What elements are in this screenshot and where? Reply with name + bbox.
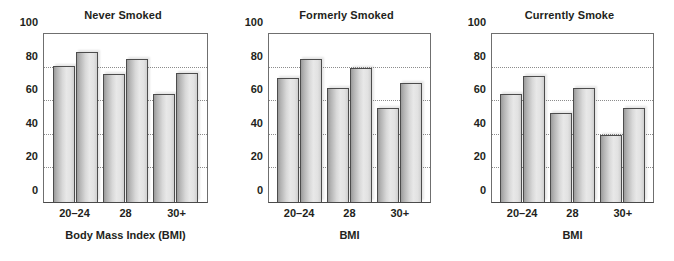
x-axis-tick-label: 20–24: [500, 207, 545, 219]
x-axis-tick-labels: 20–242830+: [43, 207, 208, 219]
bar[interactable]: [623, 108, 645, 202]
x-axis-tick-labels: 20–242830+: [268, 207, 431, 219]
x-axis-tick-label: 30+: [377, 207, 422, 219]
bar[interactable]: [500, 94, 522, 202]
y-axis-tick-label: 40: [251, 117, 263, 129]
y-axis-tick-label: 100: [468, 16, 486, 28]
y-axis-tick-label: 40: [474, 117, 486, 129]
bar[interactable]: [300, 59, 322, 202]
bar-group: [327, 34, 372, 202]
bar-groups: [44, 34, 207, 202]
bar[interactable]: [176, 73, 198, 202]
x-axis-tick-labels: 20–242830+: [491, 207, 654, 219]
bar[interactable]: [76, 52, 98, 202]
y-axis-tick-label: 80: [474, 50, 486, 62]
y-axis-tick-label: 40: [26, 117, 38, 129]
x-axis-tick-label: 20–24: [277, 207, 322, 219]
bar-group: [600, 34, 645, 202]
bar-group: [153, 34, 198, 202]
x-axis-label: BMI: [268, 229, 431, 241]
bar-group: [103, 34, 148, 202]
bar[interactable]: [53, 66, 75, 202]
bar[interactable]: [523, 76, 545, 202]
x-axis-tick-label: 30+: [154, 207, 199, 219]
y-axis-tick-label: 20: [26, 150, 38, 162]
x-axis-tick-label: 30+: [600, 207, 645, 219]
bar-group: [550, 34, 595, 202]
y-axis-tick-label: 20: [251, 150, 263, 162]
bar[interactable]: [327, 88, 349, 202]
bar-group: [53, 34, 98, 202]
bar-group: [277, 34, 322, 202]
y-axis-tick-label: 60: [474, 83, 486, 95]
y-axis-tick-label: 0: [257, 184, 263, 196]
bar-groups: [269, 34, 430, 202]
bar[interactable]: [400, 83, 422, 202]
y-axis-tick-label: 80: [26, 50, 38, 62]
y-axis-tick-label: 0: [480, 184, 486, 196]
bar-groups: [492, 34, 653, 202]
bar[interactable]: [350, 68, 372, 202]
y-axis-tick-label: 80: [251, 50, 263, 62]
chart-panel: Formerly Smoked02040608010020–242830+BMI: [228, 0, 451, 261]
plot-area: 020406080100: [268, 33, 431, 203]
y-axis-tick-label: 60: [251, 83, 263, 95]
x-axis-tick-label: 28: [550, 207, 595, 219]
y-axis-tick-label: 0: [32, 184, 38, 196]
y-axis-tick-label: 100: [245, 16, 263, 28]
y-axis-tick-label: 100: [20, 16, 38, 28]
bar[interactable]: [377, 108, 399, 202]
multi-panel-bar-chart-figure: Never Smoked02040608010020–242830+Body M…: [0, 0, 674, 261]
bar[interactable]: [573, 88, 595, 202]
bar[interactable]: [153, 94, 175, 202]
x-axis-tick-label: 28: [103, 207, 148, 219]
bar-group: [500, 34, 545, 202]
x-axis-label: Body Mass Index (BMI): [43, 229, 208, 241]
bar-group: [377, 34, 422, 202]
bar[interactable]: [277, 78, 299, 202]
chart-panel: Never Smoked02040608010020–242830+Body M…: [0, 0, 228, 261]
y-axis-tick-label: 20: [474, 150, 486, 162]
bar[interactable]: [550, 113, 572, 202]
bar[interactable]: [103, 74, 125, 202]
bar[interactable]: [126, 59, 148, 202]
plot-area: 020406080100: [491, 33, 654, 203]
chart-panel: Currently Smoke02040608010020–242830+BMI: [451, 0, 674, 261]
plot-area: 020406080100: [43, 33, 208, 203]
x-axis-tick-label: 28: [327, 207, 372, 219]
y-axis-tick-label: 60: [26, 83, 38, 95]
bar[interactable]: [600, 135, 622, 202]
x-axis-tick-label: 20–24: [52, 207, 97, 219]
x-axis-label: BMI: [491, 229, 654, 241]
